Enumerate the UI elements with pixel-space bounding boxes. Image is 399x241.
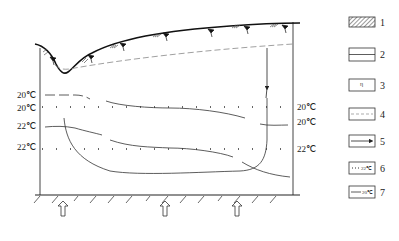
temp-label-left-1: 20℃: [17, 90, 36, 100]
temp-label-right-2: 20℃: [297, 117, 316, 127]
temp-label-left-4: 22℃: [17, 142, 36, 152]
temp-label-right-1: 20℃: [297, 102, 316, 112]
legend-1-hatched-box: [349, 17, 375, 27]
temp-label-left-2: 20℃: [17, 103, 36, 113]
cross-section-diagram: 20℃ 20℃ 22℃ 22℃ 20℃ 20℃ 22℃ 1 2: [0, 0, 399, 241]
up-arrow-icon: [232, 201, 242, 216]
legend-7-number: 7: [380, 187, 385, 198]
legend-6-number: 6: [380, 163, 385, 174]
isotherm-22-upper-b: [110, 140, 233, 157]
legend-1-number: 1: [380, 17, 385, 28]
up-arrow-icon: [160, 201, 170, 216]
legend-3-number: 3: [380, 80, 385, 91]
legend-6-text: 22℃: [361, 166, 372, 171]
flow-line-right: [266, 88, 267, 98]
ground-surface: [35, 23, 300, 73]
isotherm-20-dashed: [45, 95, 90, 99]
up-arrow-icon: [58, 201, 68, 216]
legend: 1 2 η 3 4 5 22℃ 6 20℃ 7: [349, 17, 385, 198]
temp-label-left-3: 22℃: [17, 121, 36, 131]
isotherm-22-upper-a: [45, 126, 102, 135]
upward-inflow-arrows: [58, 201, 242, 216]
spring-symbol-icon: η: [360, 81, 363, 87]
flow-path-u: [64, 98, 267, 173]
temp-label-right-3: 22℃: [297, 144, 316, 154]
base-hatch-marks: [34, 196, 276, 203]
legend-7-text: 20℃: [362, 190, 373, 195]
legend-5-number: 5: [380, 136, 385, 147]
surface-hatch-marks: [43, 24, 278, 63]
isotherm-20-right: [260, 124, 288, 125]
spring-icons: [50, 25, 288, 65]
legend-2-number: 2: [380, 49, 385, 60]
legend-4-number: 4: [380, 109, 385, 120]
isotherm-20-solid: [106, 101, 245, 118]
